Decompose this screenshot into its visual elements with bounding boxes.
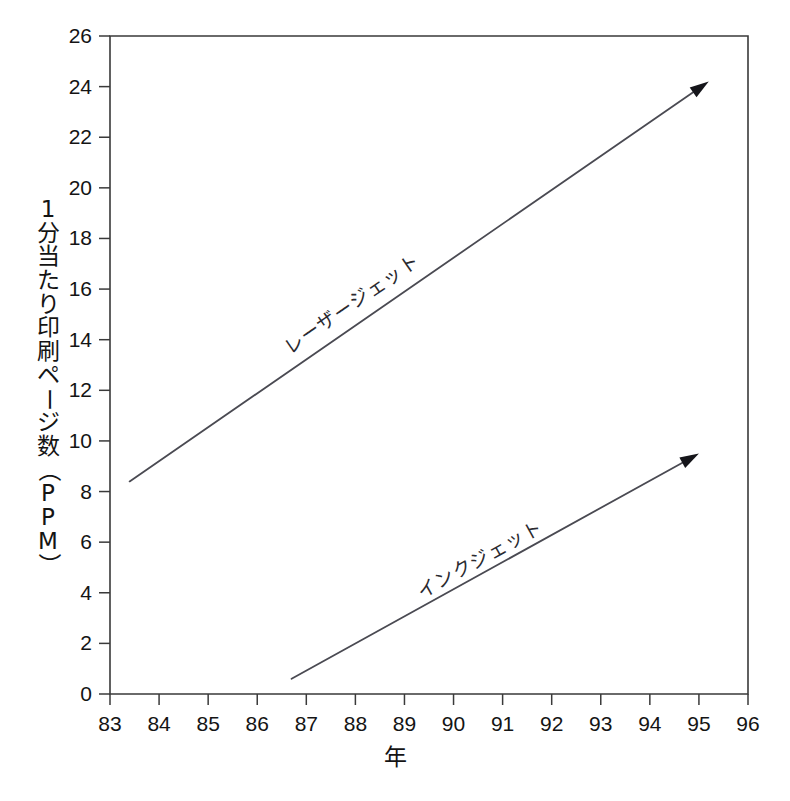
y-tick-label: 22 [69,125,92,148]
y-axis-title-char: 印 [37,316,60,340]
series-line-ink-jet [292,460,687,679]
y-axis-title-char: 数 [37,435,60,459]
y-tick-label: 16 [69,277,92,300]
y-tick-label: 14 [69,328,93,351]
y-tick-label: 6 [80,530,92,553]
x-tick-label: 92 [540,712,563,735]
y-axis-title-char: P [41,482,55,506]
y-axis-title-char: た [37,269,60,293]
x-tick-label: 95 [687,712,710,735]
chart-container: 02468101214161820222426 8384858687888990… [0,0,790,801]
series-line-laser-jet [130,89,698,481]
x-tick-label: 89 [393,712,416,735]
y-axis-title-char: 1 [41,198,56,222]
x-axis-ticks [110,694,748,705]
y-axis-tick-labels: 02468101214161820222426 [69,24,93,705]
y-tick-label: 10 [69,429,92,452]
y-axis-title-char: P [41,506,55,530]
arrow-head-icon [690,82,709,98]
y-tick-label: 26 [69,24,92,47]
y-tick-label: 0 [80,682,92,705]
x-tick-label: 91 [491,712,514,735]
y-axis-title-char: （ [36,459,60,482]
x-tick-label: 93 [589,712,612,735]
y-axis-title-char: ジ [37,411,60,435]
x-tick-label: 86 [246,712,269,735]
y-tick-label: 2 [80,631,92,654]
y-tick-label: 18 [69,226,92,249]
y-tick-label: 20 [69,176,92,199]
x-axis-tick-labels: 8384858687888990919293949596 [98,712,759,735]
y-axis-title-char: ー [36,388,60,411]
y-axis-title-char: ） [36,554,60,577]
x-tick-label: 90 [442,712,465,735]
y-tick-label: 24 [69,75,93,98]
y-tick-label: 8 [80,480,92,503]
x-tick-label: 87 [295,712,318,735]
series-annotations-group: レーザージェットインクジェット [279,249,546,602]
series-label-laser-jet: レーザージェット [279,249,423,358]
y-axis-title-char: ペ [37,364,60,388]
y-axis-ticks [99,36,110,694]
y-axis-title-char: り [37,293,60,317]
x-tick-label: 85 [196,712,219,735]
y-axis-title-char: M [38,530,58,554]
y-axis-title-char: 分 [37,222,60,246]
x-axis-title: 年 [0,738,790,772]
series-label-ink-jet: インクジェット [413,515,546,602]
x-tick-label: 84 [147,712,171,735]
y-axis-title-char: 当 [37,245,60,269]
x-tick-label: 83 [98,712,121,735]
line-chart: 02468101214161820222426 8384858687888990… [0,0,790,801]
y-tick-label: 4 [80,581,92,604]
x-tick-label: 96 [736,712,759,735]
arrow-head-icon [679,454,699,468]
x-tick-label: 94 [638,712,662,735]
y-axis-title-char: 刷 [37,340,60,364]
y-tick-label: 12 [69,378,92,401]
x-tick-label: 88 [344,712,367,735]
y-axis-title: 1分当たり印刷ページ数（PPM） [26,198,70,577]
